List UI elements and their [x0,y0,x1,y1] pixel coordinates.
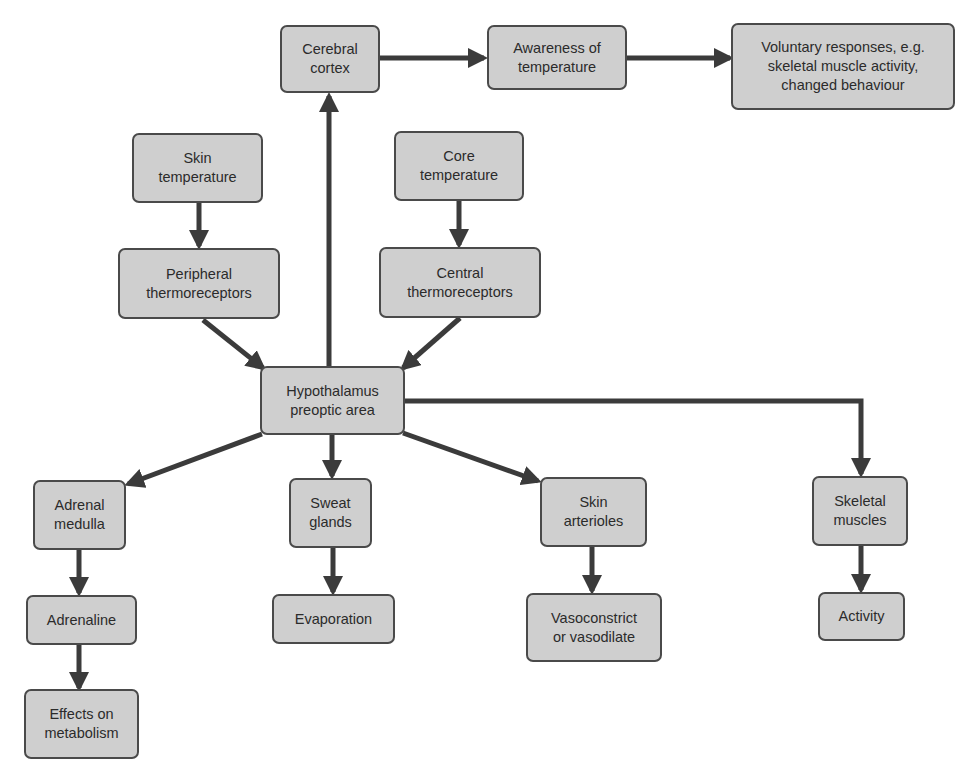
node-hypothalamus-preoptic-area: Hypothalamus preoptic area [260,366,405,435]
node-skeletal-muscles: Skeletal muscles [812,476,908,546]
node-skin-arterioles: Skin arterioles [540,477,647,547]
node-activity: Activity [818,592,905,641]
node-effects-on-metabolism: Effects on metabolism [24,689,139,759]
node-sweat-glands: Sweat glands [289,478,372,548]
node-evaporation: Evaporation [272,594,395,644]
edge-peripheral-hypothalamus [203,320,263,368]
thermoregulation-diagram: Cerebral cortex Awareness of temperature… [0,0,964,781]
node-peripheral-thermoreceptors: Peripheral thermoreceptors [118,248,280,319]
edge-hypothalamus-adrenal [128,434,262,484]
node-adrenal-medulla: Adrenal medulla [33,480,126,550]
node-vasoconstrict-or-vasodilate: Vasoconstrict or vasodilate [526,593,662,662]
node-core-temperature: Core temperature [394,131,524,201]
edge-hypothalamus-arterioles [403,433,538,481]
node-adrenaline: Adrenaline [26,595,137,645]
node-central-thermoreceptors: Central thermoreceptors [379,247,541,318]
node-voluntary-responses: Voluntary responses, e.g. skeletal muscl… [731,23,955,110]
node-awareness-of-temperature: Awareness of temperature [487,25,627,90]
edge-central-hypothalamus [403,318,460,368]
node-skin-temperature: Skin temperature [132,133,263,203]
edge-hypothalamus-skeletal [405,401,861,474]
node-cerebral-cortex: Cerebral cortex [280,25,380,93]
edges-layer [0,0,964,781]
